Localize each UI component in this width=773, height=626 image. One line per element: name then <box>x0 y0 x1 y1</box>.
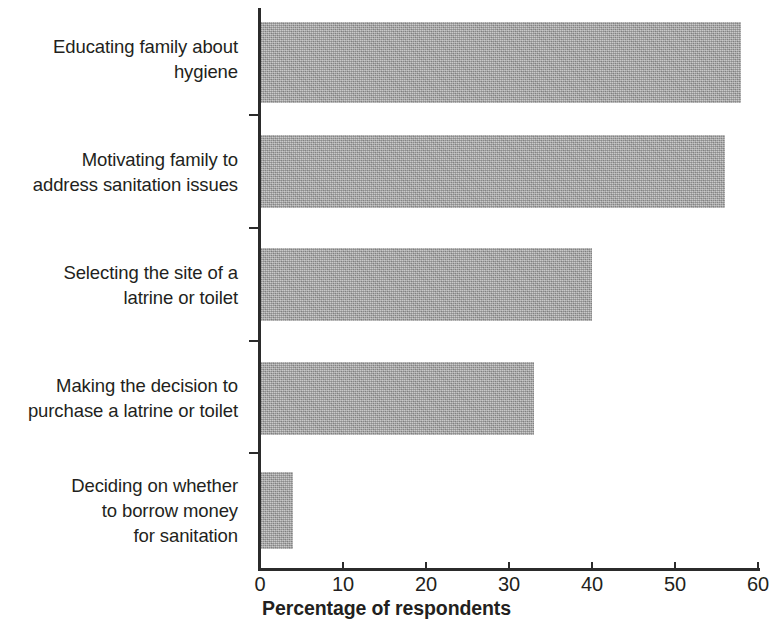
x-axis-tick <box>342 562 344 571</box>
category-label-line: Educating family about <box>0 34 238 59</box>
category-label-line: for sanitation <box>0 523 238 548</box>
y-axis-line <box>258 8 261 570</box>
bar-1 <box>260 135 725 208</box>
category-label-line: address sanitation issues <box>0 172 238 197</box>
category-axis-labels: Educating family about hygiene Motivatin… <box>0 0 248 570</box>
category-label-line: Selecting the site of a <box>0 260 238 285</box>
x-axis-tick-label: 30 <box>479 573 539 596</box>
y-axis-tick <box>249 114 259 116</box>
x-axis-tick <box>591 562 593 571</box>
x-axis-tick <box>259 562 261 571</box>
x-axis-title: Percentage of respondents <box>0 597 773 620</box>
category-label-line: Making the decision to <box>0 373 238 398</box>
category-label-line: to borrow money <box>0 498 238 523</box>
category-label-line: purchase a latrine or toilet <box>0 398 238 423</box>
category-label-deciding-on-whether-to-borrow-money-for-sanitation: Deciding on whether to borrow money for … <box>0 473 238 548</box>
x-axis-tick-label: 50 <box>645 573 705 596</box>
bar-2 <box>260 248 592 321</box>
plot-area <box>260 8 758 568</box>
bar-4 <box>260 472 293 549</box>
horizontal-bar-chart: Educating family about hygiene Motivatin… <box>0 0 773 626</box>
x-axis-tick-label: 10 <box>313 573 373 596</box>
y-axis-tick <box>249 452 259 454</box>
y-axis-tick <box>249 227 259 229</box>
x-axis-tick <box>674 562 676 571</box>
x-axis-tick <box>425 562 427 571</box>
category-label-educating-family-about-hygiene: Educating family about hygiene <box>0 34 238 84</box>
category-label-motivating-family-to-address-sanitation-issues: Motivating family to address sanitation … <box>0 147 238 197</box>
x-axis-tick-label: 60 <box>728 573 773 596</box>
category-label-line: latrine or toilet <box>0 285 238 310</box>
bar-3 <box>260 362 534 435</box>
x-axis-tick-label: 20 <box>396 573 456 596</box>
y-axis-tick <box>249 340 259 342</box>
x-axis-tick-label: 0 <box>230 573 290 596</box>
bar-0 <box>260 22 741 103</box>
x-axis-tick <box>757 562 759 571</box>
category-label-selecting-the-site-of-a-latrine-or-toilet: Selecting the site of a latrine or toile… <box>0 260 238 310</box>
category-label-making-the-decision-to-purchase-a-latrine-or-toilet: Making the decision to purchase a latrin… <box>0 373 238 423</box>
category-label-line: hygiene <box>0 59 238 84</box>
x-axis-tick-label: 40 <box>562 573 622 596</box>
category-label-line: Motivating family to <box>0 147 238 172</box>
x-axis-tick <box>508 562 510 571</box>
category-label-line: Deciding on whether <box>0 473 238 498</box>
